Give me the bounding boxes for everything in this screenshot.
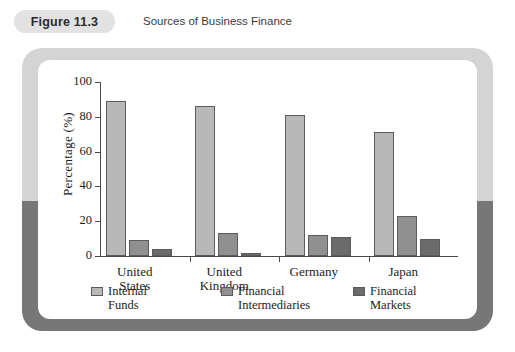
bar <box>218 233 238 256</box>
y-tick-label: 0 <box>60 248 92 263</box>
y-tick-label: 40 <box>60 178 92 193</box>
x-axis-tick <box>279 257 280 262</box>
legend-label: Internal Funds <box>108 284 147 312</box>
legend-label: Financial Intermediaries <box>238 284 310 312</box>
bar <box>285 115 305 256</box>
legend-swatch-icon <box>91 287 103 296</box>
legend-swatch-icon <box>353 287 365 296</box>
bar <box>374 132 394 256</box>
y-tick-label: 80 <box>60 109 92 124</box>
bar <box>195 106 215 256</box>
legend-item: Financial Intermediaries <box>221 284 310 312</box>
legend-swatch-icon <box>221 287 233 296</box>
bar <box>397 216 417 256</box>
legend-item: Financial Markets <box>353 284 417 312</box>
x-axis-tick <box>369 257 370 262</box>
bar <box>152 249 172 256</box>
legend-label: Financial Markets <box>370 284 417 312</box>
x-axis-group-label: Germany <box>269 265 359 279</box>
y-tick-label: 20 <box>60 213 92 228</box>
y-axis-line <box>100 82 101 257</box>
y-tick-label: 60 <box>60 144 92 159</box>
figure-number-badge: Figure 11.3 <box>14 10 115 33</box>
chart-legend: Internal FundsFinancial IntermediariesFi… <box>38 284 477 318</box>
figure-panel: Percentage (%) 020406080100 UnitedStates… <box>38 60 477 319</box>
y-tick-label: 100 <box>60 74 92 89</box>
bar-chart-plot: Percentage (%) 020406080100 UnitedStates… <box>38 60 477 319</box>
x-axis-tick <box>190 257 191 262</box>
bar <box>129 240 149 256</box>
bar <box>241 253 261 256</box>
figure-frame: Percentage (%) 020406080100 UnitedStates… <box>22 48 493 331</box>
bar <box>106 101 126 256</box>
figure-header: Figure 11.3 Sources of Business Finance <box>0 0 515 42</box>
bar <box>331 237 351 256</box>
bar <box>420 239 440 256</box>
legend-item: Internal Funds <box>91 284 147 312</box>
figure-caption: Sources of Business Finance <box>143 15 292 27</box>
bar <box>308 235 328 256</box>
x-axis-group-label: Japan <box>359 265 449 279</box>
